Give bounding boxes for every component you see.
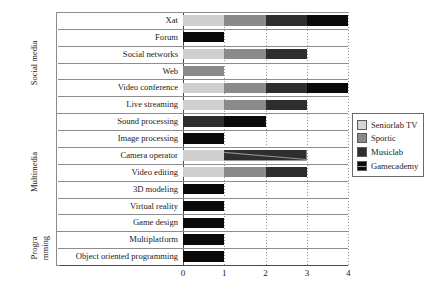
y-tick-label: Image processing [118,130,178,147]
row-separator [58,130,348,131]
legend-swatch-icon [357,161,367,171]
row-separator [58,113,348,114]
bar-row [183,231,348,248]
bar-segment-seniorlab-tv [183,49,224,59]
x-axis-tick-labels: 01234 [0,268,444,284]
bar-row [183,79,348,96]
stacked-bar [183,167,307,177]
stacked-bar [183,251,224,261]
bar-row [183,248,348,265]
bar-segment-sportic [224,167,265,177]
y-tick-label: Web [162,63,178,80]
row-separator [58,181,348,182]
plot-area [183,12,348,265]
legend-item-label: Musiclab [371,147,403,157]
x-tick-label: 4 [346,268,351,278]
bar-segment-musiclab [183,116,224,126]
bar-row [183,63,348,80]
bar-segment-musiclab [266,167,307,177]
stacked-bar [183,100,307,110]
bar-segment-musiclab [266,15,307,25]
bar-segment-gamecademy [183,218,224,228]
x-tick-label: 1 [222,268,227,278]
stacked-bar [183,133,224,143]
bar-segment-gamecademy [183,201,224,211]
bar-segment-sportic [224,49,265,59]
row-separator [58,214,348,215]
bar-segment-gamecademy [183,251,224,261]
stacked-bar-chart: Social mediaMultimediaProgramming XatFor… [0,0,444,296]
bar-row [183,96,348,113]
bar-rows [183,12,348,265]
row-separator [58,164,348,165]
legend-item-label: Seniorlab TV [371,120,417,130]
bar-segment-gamecademy [183,133,224,143]
y-tick-label: Multiplatform [129,231,178,248]
bar-segment-gamecademy [183,184,224,194]
bar-row [183,113,348,130]
stacked-bar [183,66,224,76]
bar-row [183,181,348,198]
bar-row [183,164,348,181]
row-separator [58,96,348,97]
bar-row [183,46,348,63]
y-tick-label: Forum [155,29,178,46]
row-separator [58,63,348,64]
bar-segment-gamecademy [183,234,224,244]
legend-item-musiclab: Musiclab [357,145,418,159]
bar-segment-sportic [224,100,265,110]
x-axis-line [60,265,348,266]
bar-segment-gamecademy [183,32,224,42]
stacked-bar [183,150,224,160]
bar-segment-musiclab [266,49,307,59]
y-axis-category-labels: XatForumSocial networksWebVideo conferen… [0,12,181,265]
stacked-bar [183,15,348,25]
y-tick-label: Xat [166,12,178,29]
row-separator [58,198,348,199]
bar-segment-gamecademy [307,83,348,93]
bar-row [183,214,348,231]
legend-item-seniorlab-tv: Seniorlab TV [357,118,418,132]
bar-segment-musiclab [266,83,307,93]
stacked-bar [183,184,224,194]
stacked-bar [183,32,224,42]
stacked-bar [183,201,224,211]
bar-segment-seniorlab-tv [183,150,224,160]
bar-segment-seniorlab-tv [183,15,224,25]
bar-segment-seniorlab-tv [183,100,224,110]
bar-row [183,29,348,46]
stacked-bar [183,83,348,93]
bar-segment-gamecademy [224,116,265,126]
y-tick-label: Live streaming [126,96,178,113]
bar-segment-sportic [183,66,224,76]
bar-segment-seniorlab-tv [183,167,224,177]
y-tick-label: Virtual reality [130,198,178,215]
bar-segment-sportic [224,15,265,25]
bar-segment-musiclab [224,150,307,160]
x-tick-label: 3 [305,268,310,278]
chart-legend: Seniorlab TV Sportic Musiclab Gamecademy [352,113,424,177]
bar-row [183,130,348,147]
gridline [348,12,349,265]
stacked-bar [183,116,266,126]
bar-row [183,147,348,164]
row-separator [58,46,348,47]
y-tick-label: Game design [133,214,178,231]
legend-swatch-icon [357,120,367,130]
row-separator [58,29,348,30]
bar-segment-musiclab [266,100,307,110]
stacked-bar [183,49,307,59]
y-tick-label: 3D modeling [133,181,178,198]
row-separator [58,12,348,13]
bar-row [183,198,348,215]
legend-item-label: Sportic [371,133,396,143]
y-tick-label: Sound processing [117,113,178,130]
stacked-bar [183,234,224,244]
row-separator [58,248,348,249]
x-tick-label: 2 [263,268,268,278]
legend-item-sportic: Sportic [357,132,418,146]
legend-swatch-icon [357,133,367,143]
row-separator [58,79,348,80]
y-tick-label: Object oriented programming [76,248,178,265]
legend-swatch-icon [357,147,367,157]
